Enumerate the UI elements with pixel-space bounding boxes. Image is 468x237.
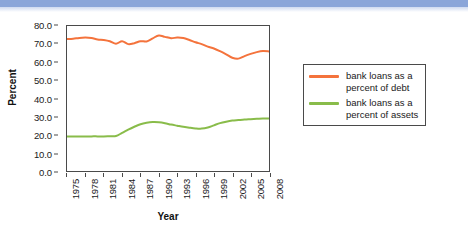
x-tick-mark (66, 173, 67, 177)
y-tick-mark (54, 98, 58, 99)
y-tick-label: 60.0 (34, 56, 52, 67)
x-tick-label: 2005 (255, 179, 266, 199)
y-tick-label: 20.0 (34, 130, 52, 141)
plot-inner (67, 26, 269, 171)
x-tick-label: 1996 (200, 179, 211, 199)
x-tick-label: 1990 (163, 179, 174, 199)
x-tick-label: 2008 (274, 179, 285, 199)
x-axis-ticks: 1975197819811984198719901993199619992002… (66, 173, 270, 207)
x-tick-label: 1987 (144, 179, 155, 199)
y-tick-mark (54, 80, 58, 81)
y-tick-label: 80.0 (34, 20, 52, 31)
legend-label-line1: bank loans as a (346, 70, 413, 82)
y-tick-label: 10.0 (34, 148, 52, 159)
y-axis-title: Percent (7, 53, 18, 123)
series-line-debt (67, 35, 269, 58)
x-tick-mark (270, 173, 271, 177)
top-decorative-band (0, 0, 468, 7)
y-tick-label: 40.0 (34, 93, 52, 104)
x-tick-label: 1993 (181, 179, 192, 199)
x-tick-mark (85, 173, 86, 177)
legend-item: bank loans as apercent of debt (309, 70, 418, 93)
top-band-fade (0, 7, 468, 12)
legend-label-line1: bank loans as a (346, 97, 418, 109)
x-tick-mark (159, 173, 160, 177)
x-tick-mark (122, 173, 123, 177)
x-tick-mark (251, 173, 252, 177)
series-line-assets (67, 118, 269, 136)
x-tick-label: 1975 (70, 179, 81, 199)
x-tick-label: 1999 (218, 179, 229, 199)
legend-label: bank loans as apercent of debt (346, 70, 413, 93)
x-tick-mark (233, 173, 234, 177)
x-tick-label: 1978 (89, 179, 100, 199)
x-tick-label: 2002 (237, 179, 248, 199)
x-tick-mark (103, 173, 104, 177)
legend-item: bank loans as apercent of assets (309, 97, 418, 120)
x-tick-mark (196, 173, 197, 177)
legend-color-swatch (309, 75, 339, 78)
y-tick-mark (54, 135, 58, 136)
chart-figure: 0.010.020.030.040.050.060.070.080.0 Perc… (0, 0, 468, 237)
y-tick-label: 70.0 (34, 38, 52, 49)
series-lines (67, 26, 269, 171)
y-tick-mark (54, 43, 58, 44)
x-tick-label: 1981 (107, 179, 118, 199)
y-tick-mark (54, 172, 58, 173)
y-tick-mark (54, 25, 58, 26)
chart-legend: bank loans as apercent of debtbank loans… (303, 64, 426, 126)
plot-area (66, 25, 270, 172)
y-tick-mark (54, 153, 58, 154)
y-tick-label: 50.0 (34, 75, 52, 86)
x-tick-mark (140, 173, 141, 177)
legend-color-swatch (309, 102, 339, 105)
y-tick-label: 0.0 (39, 167, 52, 178)
legend-label-line2: percent of assets (346, 109, 418, 121)
y-tick-mark (54, 116, 58, 117)
x-tick-mark (177, 173, 178, 177)
x-tick-mark (214, 173, 215, 177)
y-tick-label: 30.0 (34, 111, 52, 122)
x-axis-title: Year (66, 211, 270, 222)
x-tick-label: 1984 (126, 179, 137, 199)
legend-label-line2: percent of debt (346, 82, 413, 94)
y-tick-mark (54, 61, 58, 62)
legend-label: bank loans as apercent of assets (346, 97, 418, 120)
